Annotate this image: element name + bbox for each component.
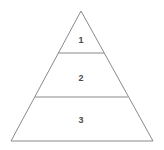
tier-label-bottom: 3 [78,116,83,125]
tier-label-middle: 2 [78,74,83,83]
pyramid-diagram: 1 2 3 [0,0,164,150]
tier-label-top: 1 [78,36,83,45]
